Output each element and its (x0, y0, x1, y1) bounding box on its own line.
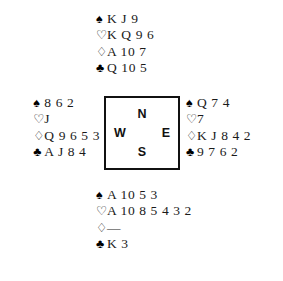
bridge-deal-diagram: ♠ K J 9 ♡ K Q 9 6 ♢ A 10 7 ♣ Q 10 5 ♠ 8 … (0, 0, 283, 281)
club-icon: ♣ (96, 238, 107, 251)
compass-label-east: E (162, 127, 170, 140)
hand-north: ♠ K J 9 ♡ K Q 9 6 ♢ A 10 7 ♣ Q 10 5 (96, 12, 154, 78)
south-spades-row: ♠ A 10 5 3 (96, 188, 192, 204)
diamond-icon: ♢ (33, 130, 44, 143)
diamond-icon: ♢ (96, 222, 107, 235)
east-diamonds-cards: K J 8 4 2 (197, 129, 251, 143)
south-hearts-row: ♡ A 10 8 5 4 3 2 (96, 204, 192, 220)
east-hearts-row: ♡ 7 (186, 112, 251, 128)
east-hearts-cards: 7 (197, 112, 204, 126)
west-hearts-cards: J (44, 112, 50, 126)
spade-icon: ♠ (96, 189, 107, 202)
east-spades-row: ♠ Q 7 4 (186, 96, 251, 112)
heart-icon: ♡ (186, 113, 197, 126)
heart-icon: ♡ (96, 29, 107, 42)
club-icon: ♣ (186, 146, 197, 159)
north-spades-cards: K J 9 (107, 12, 139, 26)
spade-icon: ♠ (33, 97, 44, 110)
west-diamonds-row: ♢ Q 9 6 5 3 (33, 129, 100, 145)
east-clubs-row: ♣ 9 7 6 2 (186, 145, 251, 161)
club-icon: ♣ (96, 62, 107, 75)
compass-label-north: N (137, 108, 146, 121)
east-diamonds-row: ♢ K J 8 4 2 (186, 129, 251, 145)
spade-icon: ♠ (96, 13, 107, 26)
compass-box: N W E S (104, 96, 180, 170)
spade-icon: ♠ (186, 97, 197, 110)
north-spades-row: ♠ K J 9 (96, 12, 154, 28)
heart-icon: ♡ (96, 205, 107, 218)
north-clubs-cards: Q 10 5 (107, 61, 147, 75)
south-clubs-cards: K 3 (107, 237, 129, 251)
compass-label-south: S (138, 146, 146, 159)
diamond-icon: ♢ (186, 130, 197, 143)
south-spades-cards: A 10 5 3 (107, 188, 158, 202)
heart-icon: ♡ (33, 113, 44, 126)
club-icon: ♣ (33, 146, 44, 159)
hand-west: ♠ 8 6 2 ♡ J ♢ Q 9 6 5 3 ♣ A J 8 4 (33, 96, 100, 162)
hand-south: ♠ A 10 5 3 ♡ A 10 8 5 4 3 2 ♢ — ♣ K 3 (96, 188, 192, 254)
south-diamonds-cards: — (107, 221, 121, 235)
west-spades-cards: 8 6 2 (44, 96, 74, 110)
north-clubs-row: ♣ Q 10 5 (96, 61, 154, 77)
west-diamonds-cards: Q 9 6 5 3 (44, 129, 100, 143)
diamond-icon: ♢ (96, 46, 107, 59)
compass-label-west: W (114, 127, 126, 140)
south-hearts-cards: A 10 8 5 4 3 2 (107, 204, 192, 218)
north-diamonds-cards: A 10 7 (107, 45, 147, 59)
west-hearts-row: ♡ J (33, 112, 100, 128)
west-clubs-cards: A J 8 4 (44, 145, 86, 159)
hand-east: ♠ Q 7 4 ♡ 7 ♢ K J 8 4 2 ♣ 9 7 6 2 (186, 96, 251, 162)
west-spades-row: ♠ 8 6 2 (33, 96, 100, 112)
east-clubs-cards: 9 7 6 2 (197, 145, 238, 159)
north-diamonds-row: ♢ A 10 7 (96, 45, 154, 61)
south-clubs-row: ♣ K 3 (96, 237, 192, 253)
west-clubs-row: ♣ A J 8 4 (33, 145, 100, 161)
east-spades-cards: Q 7 4 (197, 96, 230, 110)
south-diamonds-row: ♢ — (96, 221, 192, 237)
north-hearts-row: ♡ K Q 9 6 (96, 28, 154, 44)
north-hearts-cards: K Q 9 6 (107, 28, 154, 42)
